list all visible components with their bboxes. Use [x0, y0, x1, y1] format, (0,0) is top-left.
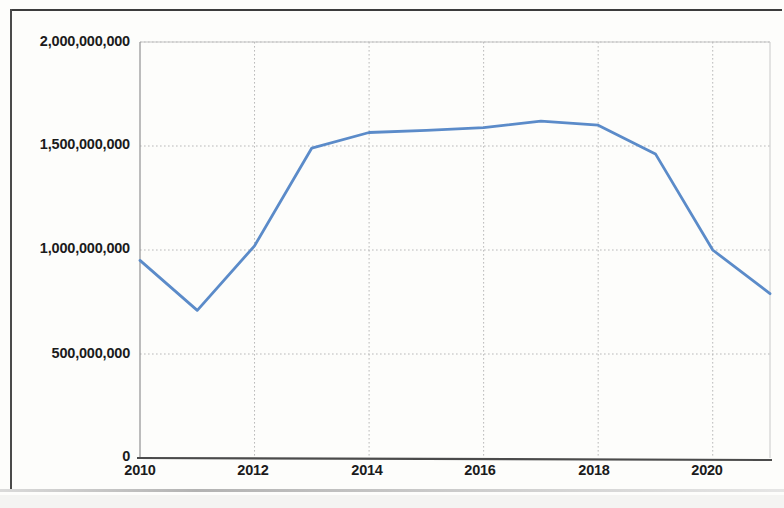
x-tick-label: 2020	[677, 462, 737, 478]
y-tick-label: 1,500,000,000	[10, 136, 130, 152]
y-tick-label: 2,000,000,000	[10, 33, 130, 49]
data-series-line	[140, 121, 770, 310]
x-tick-label: 2016	[450, 462, 510, 478]
horizontal-gridlines	[140, 42, 770, 354]
scanned-page: 2,000,000,000 1,500,000,000 1,000,000,00…	[0, 0, 784, 508]
y-tick-label: 500,000,000	[10, 345, 130, 361]
line-chart: 2,000,000,000 1,500,000,000 1,000,000,00…	[0, 0, 784, 508]
x-tick-label: 2014	[337, 462, 397, 478]
x-tick-label: 2018	[564, 462, 624, 478]
y-tick-label: 1,000,000,000	[10, 240, 130, 256]
x-tick-label: 2010	[110, 462, 170, 478]
x-tick-label: 2012	[223, 462, 283, 478]
x-axis-line	[137, 458, 772, 460]
